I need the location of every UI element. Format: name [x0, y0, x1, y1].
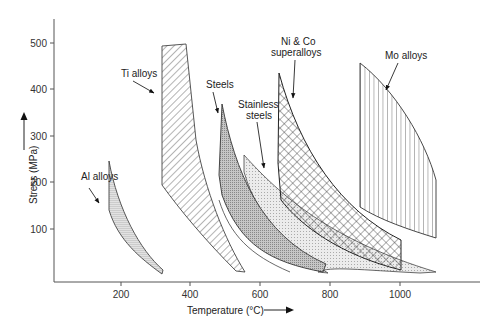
svg-text:Al alloys: Al alloys	[81, 171, 118, 182]
svg-text:superalloys: superalloys	[271, 47, 322, 58]
annotation-ti-alloys: Ti alloys	[121, 68, 157, 93]
y-tick-500: 500	[30, 38, 47, 49]
x-tick-labels: 200 400 600 800 1000	[113, 289, 412, 300]
svg-text:Ti alloys: Ti alloys	[121, 68, 157, 79]
x-tick-600: 600	[252, 289, 269, 300]
x-tick-400: 400	[182, 289, 199, 300]
y-tick-400: 400	[30, 84, 47, 95]
x-tick-1000: 1000	[389, 289, 412, 300]
x-tick-800: 800	[322, 289, 339, 300]
arrow-icon	[293, 60, 295, 98]
arrow-icon	[89, 188, 99, 203]
annotation-steels: Steels	[206, 79, 234, 113]
y-axis-arrow-icon	[21, 112, 28, 150]
arrow-icon	[133, 81, 154, 93]
y-tick-300: 300	[30, 131, 47, 142]
y-axis-title: Stress (MPa)	[28, 146, 39, 204]
svg-text:Ni & Co: Ni & Co	[281, 36, 316, 47]
arrow-icon	[213, 92, 218, 113]
x-axis-arrow-icon	[264, 307, 294, 314]
y-tick-labels: 500 400 300 200 100	[30, 38, 47, 235]
x-axis-title: Temperature (°C)	[187, 305, 264, 316]
x-tick-200: 200	[113, 289, 130, 300]
svg-text:Steels: Steels	[206, 79, 234, 90]
arrow-icon	[386, 63, 398, 90]
svg-text:Stainless: Stainless	[238, 99, 279, 110]
region-mo-alloys	[360, 63, 436, 238]
svg-text:Mo alloys: Mo alloys	[385, 50, 427, 61]
arrow-icon	[257, 122, 264, 168]
annotation-mo-alloys: Mo alloys	[385, 50, 427, 90]
svg-text:steels: steels	[246, 110, 272, 121]
y-tick-100: 100	[30, 224, 47, 235]
chart: 500 400 300 200 100 200 400 600 800 1000…	[0, 0, 486, 330]
